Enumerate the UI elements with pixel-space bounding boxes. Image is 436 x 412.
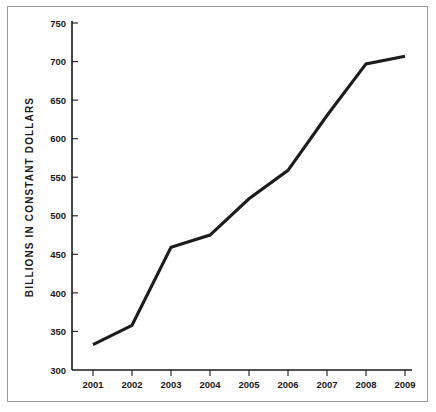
x-tick-label: 2003 bbox=[160, 379, 181, 390]
y-tick-label: 350 bbox=[50, 326, 66, 337]
chart-figure: BILLIONS IN CONSTANT DOLLARS 750 700 650… bbox=[0, 0, 436, 412]
x-tick-label: 2002 bbox=[121, 379, 142, 390]
data-series-line bbox=[93, 56, 405, 344]
x-tick-label: 2006 bbox=[277, 379, 298, 390]
y-tick-label: 750 bbox=[50, 18, 66, 29]
x-tick-label: 2007 bbox=[316, 379, 337, 390]
y-axis-title: BILLIONS IN CONSTANT DOLLARS bbox=[24, 97, 35, 297]
x-tick-label: 2004 bbox=[199, 379, 221, 390]
x-tick-label: 2008 bbox=[355, 379, 376, 390]
y-tick-label: 650 bbox=[50, 95, 66, 106]
x-tick-label: 2001 bbox=[82, 379, 104, 390]
y-tick-label: 400 bbox=[50, 288, 66, 299]
y-tick-label: 700 bbox=[50, 56, 66, 67]
y-axis-ticks: 750 700 650 600 550 500 450 400 350 300 bbox=[50, 18, 78, 376]
x-tick-label: 2005 bbox=[238, 379, 260, 390]
y-tick-label: 550 bbox=[50, 172, 66, 183]
chart-svg: BILLIONS IN CONSTANT DOLLARS 750 700 650… bbox=[0, 0, 436, 412]
x-tick-label: 2009 bbox=[394, 379, 415, 390]
y-tick-label: 500 bbox=[50, 210, 66, 221]
y-tick-label: 600 bbox=[50, 133, 66, 144]
y-tick-label: 450 bbox=[50, 249, 66, 260]
y-tick-label: 300 bbox=[50, 365, 66, 376]
line-chart: BILLIONS IN CONSTANT DOLLARS 750 700 650… bbox=[0, 0, 436, 412]
x-axis-ticks: 2001 2002 2003 2004 2005 2006 2007 2008 … bbox=[82, 370, 415, 390]
